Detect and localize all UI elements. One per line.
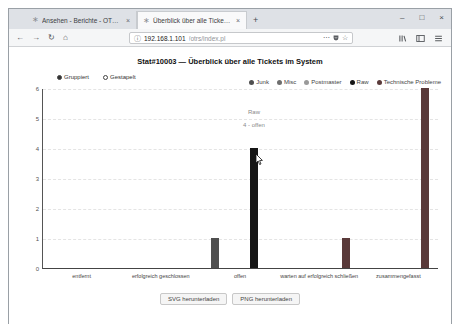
radio-selected-icon[interactable]	[57, 75, 62, 80]
sidebar-icon[interactable]	[416, 34, 425, 43]
x-tick-label: offen	[234, 273, 246, 279]
site-info-icon[interactable]: ⓘ	[134, 33, 141, 43]
window-controls: – □ ×	[397, 9, 447, 25]
tab-strip: ∗ Ansehen - Berichte - OTRS 6 × ∗ Überbl…	[9, 9, 451, 29]
navigation-bar: ← → ↻ ⌂ ⓘ 192.168.1.101 /otrs/index.pl ⋯…	[9, 29, 451, 47]
chart-legend: JunkMiscPostmasterRawTechnische Probleme	[249, 79, 441, 85]
bar-junk[interactable]	[211, 238, 219, 268]
mouse-cursor-icon	[255, 151, 263, 169]
legend-dot-icon	[304, 80, 309, 85]
gridline	[43, 239, 438, 240]
legend-label: Technische Probleme	[384, 79, 441, 85]
mode-gestapelt[interactable]: Gestapelt	[103, 74, 136, 80]
mode-label: Gruppiert	[64, 74, 89, 80]
legend-label: Misc	[284, 79, 296, 85]
home-button[interactable]: ⌂	[63, 33, 68, 42]
y-tick-label: 3	[36, 176, 39, 182]
gridline	[43, 89, 438, 90]
legend-item[interactable]: Raw	[350, 79, 369, 85]
otrs-favicon: ∗	[143, 17, 150, 25]
x-tick-label: warten auf erfolgreich schließen	[280, 273, 358, 279]
download-svg-button[interactable]: SVG herunterladen	[160, 293, 227, 305]
x-tick-label: erfolgreich geschlossen	[132, 273, 190, 279]
x-tick-label: zusammengefasst	[376, 273, 421, 279]
close-tab-icon[interactable]: ×	[235, 17, 241, 24]
tab-ueberblick[interactable]: ∗ Überblick über alle Tickets im... ×	[137, 11, 247, 29]
y-tick-label: 0	[36, 266, 39, 272]
minimize-button[interactable]: –	[397, 13, 407, 22]
mode-label: Gestapelt	[110, 74, 136, 80]
legend-item[interactable]: Junk	[249, 79, 269, 85]
plot-area: Raw4 - offen	[42, 89, 438, 269]
back-button[interactable]: ←	[16, 33, 24, 42]
legend-item[interactable]: Technische Probleme	[377, 79, 441, 85]
y-tick-label: 5	[36, 116, 39, 122]
y-tick-label: 2	[36, 206, 39, 212]
library-icon[interactable]	[398, 34, 407, 43]
legend-dot-icon	[277, 80, 282, 85]
tooltip-value: 4 - offen	[243, 122, 265, 128]
tab-berichte[interactable]: ∗ Ansehen - Berichte - OTRS 6 ×	[27, 11, 137, 29]
legend-label: Raw	[357, 79, 369, 85]
legend-item[interactable]: Misc	[277, 79, 296, 85]
y-tick-label: 4	[36, 146, 39, 152]
reload-button[interactable]: ↻	[48, 33, 55, 42]
tab-title: Überblick über alle Tickets im...	[153, 17, 232, 24]
legend-label: Junk	[256, 79, 269, 85]
page-title: Stat#10003 — Überblick über alle Tickets…	[9, 57, 451, 66]
tab-title: Ansehen - Berichte - OTRS 6	[42, 17, 122, 24]
legend-item[interactable]: Postmaster	[304, 79, 341, 85]
bookmark-star-icon[interactable]: ☆	[342, 34, 348, 42]
url-path: /otrs/index.pl	[189, 35, 320, 42]
x-axis-labels: entfernterfolgreich geschlossenoffenwart…	[42, 273, 438, 283]
new-tab-button[interactable]: +	[247, 11, 264, 29]
chart-tooltip: Raw4 - offen	[243, 109, 265, 128]
download-png-button[interactable]: PNG herunterladen	[232, 293, 300, 305]
close-tab-icon[interactable]: ×	[125, 17, 131, 24]
download-buttons: SVG herunterladen PNG herunterladen	[9, 293, 451, 305]
pocket-icon[interactable]	[333, 35, 339, 42]
y-tick-label: 1	[36, 236, 39, 242]
gridline	[43, 149, 438, 150]
menu-hamburger-icon[interactable]	[434, 34, 443, 43]
legend-dot-icon	[249, 80, 254, 85]
legend-dot-icon	[350, 80, 355, 85]
close-window-button[interactable]: ×	[436, 13, 447, 22]
tooltip-series: Raw	[243, 109, 265, 115]
gridline	[43, 209, 438, 210]
maximize-button[interactable]: □	[416, 13, 427, 22]
bar-technische-probleme[interactable]	[342, 238, 350, 268]
legend-dot-icon	[377, 80, 382, 85]
y-axis-labels: 0123456	[9, 89, 39, 269]
page-content: Stat#10003 — Überblick über alle Tickets…	[9, 47, 451, 324]
legend-label: Postmaster	[311, 79, 341, 85]
bar-technische-probleme[interactable]	[421, 88, 429, 268]
y-tick-label: 6	[36, 86, 39, 92]
x-tick-label: entfernt	[72, 273, 91, 279]
browser-window: ∗ Ansehen - Berichte - OTRS 6 × ∗ Überbl…	[8, 8, 452, 324]
url-domain: 192.168.1.101	[144, 35, 186, 42]
radio-unselected-icon[interactable]	[103, 75, 108, 80]
chart-mode-toggle: Gruppiert Gestapelt	[57, 74, 136, 80]
otrs-favicon: ∗	[32, 16, 39, 24]
page-actions-icon[interactable]: ⋯	[323, 34, 330, 42]
mode-gruppiert[interactable]: Gruppiert	[57, 74, 89, 80]
url-bar[interactable]: ⓘ 192.168.1.101 /otrs/index.pl ⋯ ☆	[129, 32, 353, 44]
gridline	[43, 119, 438, 120]
gridline	[43, 179, 438, 180]
forward-button[interactable]: →	[32, 33, 40, 42]
